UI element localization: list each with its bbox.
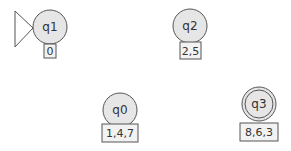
state-set-label: 2,5 — [182, 45, 200, 58]
state-q0[interactable]: q0 1,4,7 — [102, 93, 138, 142]
state-label: q1 — [42, 20, 57, 34]
state-set-label: 0 — [47, 45, 54, 58]
state-set-label: 8,6,3 — [245, 126, 273, 139]
state-q1[interactable]: q1 0 — [15, 10, 67, 58]
state-set-label: 1,4,7 — [106, 127, 134, 140]
state-label: q0 — [112, 103, 127, 117]
state-label: q2 — [182, 19, 197, 33]
state-diagram-canvas: q1 0 q2 2,5 q0 1,4,7 q3 8,6,3 — [0, 0, 291, 151]
state-q2[interactable]: q2 2,5 — [173, 9, 207, 59]
initial-state-arrow-icon — [15, 11, 33, 47]
state-label: q3 — [251, 97, 266, 111]
state-q3[interactable]: q3 8,6,3 — [240, 87, 278, 141]
